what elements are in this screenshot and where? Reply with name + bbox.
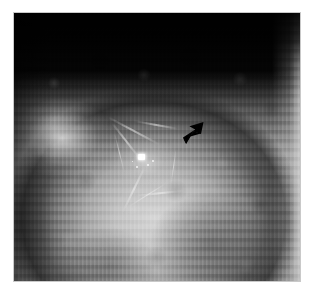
glandular-density-left: [14, 13, 300, 281]
image-frame-border: [13, 12, 301, 282]
spiculation-line: [135, 190, 185, 197]
breast-tissue-base-layer: [14, 13, 300, 281]
pointer-arrow-icon[interactable]: [170, 121, 204, 147]
spiculation-line: [122, 165, 146, 212]
air-field-background: [14, 13, 300, 281]
microcalcification-speck: [132, 161, 133, 162]
trabecular-banding-texture: [14, 13, 300, 281]
microcalcification-marker: [138, 154, 145, 160]
spiculation-line: [171, 149, 177, 185]
microcalcification-speck: [152, 160, 154, 162]
parenchymal-mottle-texture: [14, 13, 300, 281]
antiscatter-grid-artifact: [14, 13, 300, 281]
retroglandular-shadow: [14, 13, 300, 281]
breast-tissue-dome-layer: [14, 13, 300, 281]
lateral-skin-line: [14, 13, 300, 281]
radiograph-plate[interactable]: [14, 13, 300, 281]
arrow-glyph: [170, 121, 204, 147]
mammogram-image-viewer[interactable]: [0, 0, 313, 293]
microcalcification-speck: [136, 166, 138, 168]
spiculated-mass-core: [14, 13, 300, 281]
microcalcification-speck: [147, 164, 149, 166]
